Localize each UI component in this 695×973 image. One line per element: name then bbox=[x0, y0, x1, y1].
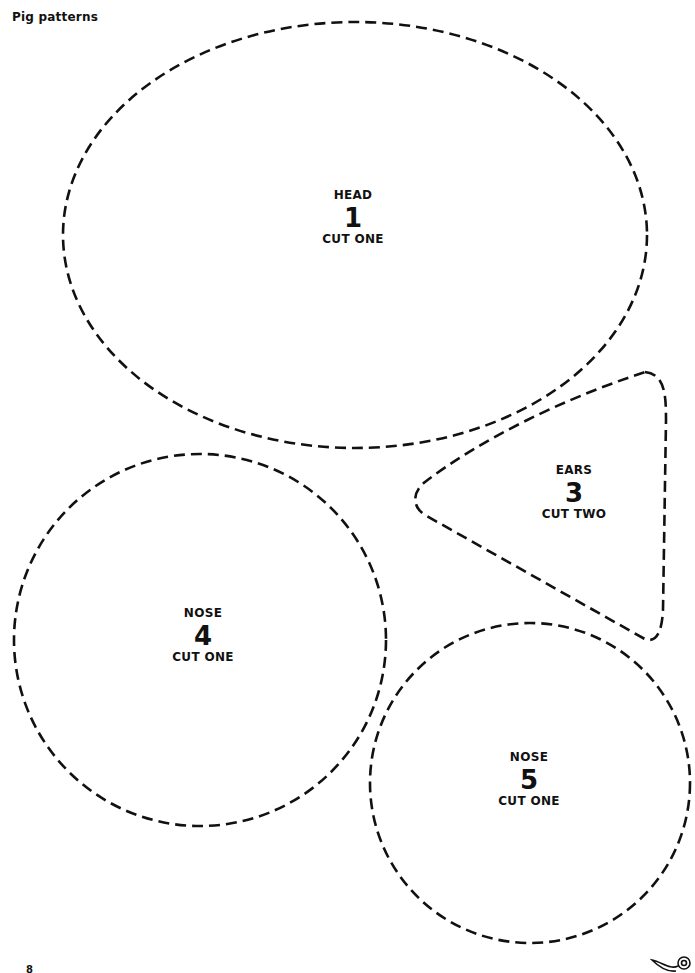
piece-instruction: CUT TWO bbox=[542, 507, 607, 521]
piece-head-label: HEAD 1 CUT ONE bbox=[322, 188, 383, 246]
piece-number: 3 bbox=[542, 479, 607, 507]
piece-instruction: CUT ONE bbox=[322, 232, 383, 246]
ears-outline bbox=[415, 372, 666, 640]
piece-nose-5-label: NOSE 5 CUT ONE bbox=[498, 750, 559, 808]
piece-number: 4 bbox=[172, 622, 233, 650]
piece-ears-label: EARS 3 CUT TWO bbox=[542, 463, 607, 521]
piece-name: NOSE bbox=[498, 750, 559, 764]
page-number: 8 bbox=[26, 964, 33, 973]
piece-number: 1 bbox=[322, 204, 383, 232]
piece-name: EARS bbox=[542, 463, 607, 477]
piece-name: NOSE bbox=[172, 606, 233, 620]
piece-instruction: CUT ONE bbox=[172, 650, 233, 664]
piece-number: 5 bbox=[498, 766, 559, 794]
piece-nose-4-label: NOSE 4 CUT ONE bbox=[172, 606, 233, 664]
piece-instruction: CUT ONE bbox=[498, 794, 559, 808]
piece-name: HEAD bbox=[322, 188, 383, 202]
scissors-icon bbox=[652, 957, 690, 971]
